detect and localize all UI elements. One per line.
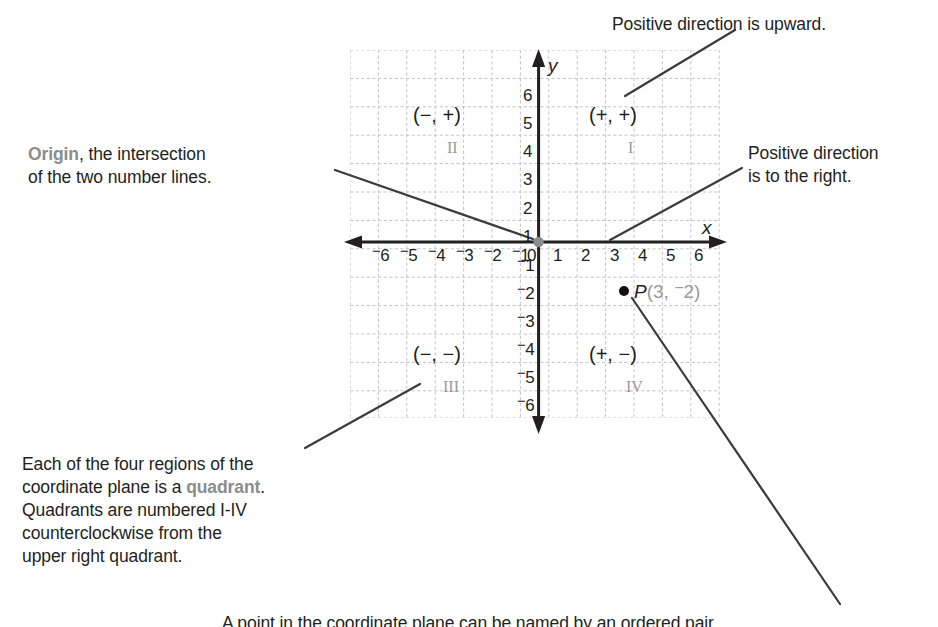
x-tick-4: 4 bbox=[638, 246, 647, 266]
callout-positive-right: Positive direction is to the right. bbox=[748, 142, 938, 188]
x-tick--3: −3 bbox=[456, 246, 474, 266]
y-tick-4: 4 bbox=[523, 142, 532, 162]
callout-origin-term: Origin bbox=[28, 144, 79, 164]
x-tick--4: −4 bbox=[428, 246, 446, 266]
x-tick--2: −2 bbox=[484, 246, 502, 266]
figure-canvas: −6 −5 −4 −3 −2 −1 0 1 2 3 4 5 6 6 5 4 3 … bbox=[0, 0, 938, 627]
y-tick--4: −4 bbox=[517, 340, 535, 360]
point-label-coords-value: 2 bbox=[683, 281, 694, 302]
x-tick-2: 2 bbox=[581, 246, 590, 266]
point-label-coords-close: ) bbox=[694, 281, 700, 302]
y-tick--5: −5 bbox=[517, 368, 535, 388]
leader-line-positive-right bbox=[610, 168, 742, 240]
point-label-coords-minus: − bbox=[674, 279, 683, 296]
y-tick-2: 2 bbox=[523, 199, 532, 219]
y-tick-3: 3 bbox=[523, 170, 532, 190]
y-tick--3: −3 bbox=[517, 312, 535, 332]
quadrant-roman-iv: IV bbox=[626, 378, 643, 396]
quadrant-roman-i: I bbox=[628, 139, 633, 157]
y-tick-5: 5 bbox=[523, 114, 532, 134]
y-tick-6: 6 bbox=[523, 86, 532, 106]
grid-lines bbox=[350, 50, 720, 418]
point-label-coords-open: (3, bbox=[647, 281, 674, 302]
callout-quadrant: Each of the four regions of the coordina… bbox=[22, 430, 362, 568]
x-axis-label: x bbox=[702, 217, 712, 239]
point-label-name: P bbox=[634, 281, 647, 302]
x-tick-1: 1 bbox=[553, 246, 562, 266]
leader-lines bbox=[305, 30, 840, 604]
x-tick-5: 5 bbox=[666, 246, 675, 266]
data-point-p bbox=[619, 286, 629, 296]
y-tick--2: −2 bbox=[517, 284, 535, 304]
x-tick--5: −5 bbox=[400, 246, 418, 266]
leader-line-origin bbox=[335, 170, 533, 239]
y-tick--6: −6 bbox=[517, 396, 535, 416]
x-tick-3: 3 bbox=[610, 246, 619, 266]
point-label-p: P(3, −2) bbox=[634, 281, 700, 303]
x-tick--6: −6 bbox=[372, 246, 390, 266]
callout-origin: Origin, the intersection of the two numb… bbox=[28, 120, 348, 189]
y-tick--1: −1 bbox=[517, 256, 535, 276]
quadrant-roman-iii: III bbox=[443, 378, 459, 396]
y-tick-1: 1 bbox=[523, 227, 532, 247]
callout-quadrant-term: quadrant bbox=[186, 477, 260, 497]
leader-line-point-p bbox=[632, 298, 840, 604]
quadrant-signs-iv: (+, −) bbox=[589, 343, 637, 366]
quadrant-signs-iii: (−, −) bbox=[413, 343, 461, 366]
y-axis-label: y bbox=[548, 55, 558, 77]
x-tick-6: 6 bbox=[694, 246, 703, 266]
quadrant-roman-ii: II bbox=[447, 139, 458, 157]
callout-positive-up: Positive direction is upward. bbox=[612, 13, 932, 36]
quadrant-signs-i: (+, +) bbox=[589, 104, 637, 127]
callout-bottom-clipped: A point in the coordinate plane can be n… bbox=[222, 612, 938, 627]
leader-line-positive-up bbox=[625, 30, 735, 96]
quadrant-signs-ii: (−, +) bbox=[413, 104, 461, 127]
